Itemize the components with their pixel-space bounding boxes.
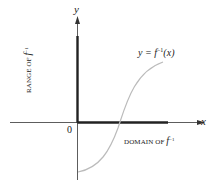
curve-label-prefix: y = (138, 47, 154, 58)
range-label: RANGE OF f−1 (22, 47, 33, 93)
y-axis-label: y (74, 3, 79, 15)
domain-label-text: DOMAIN OF (124, 138, 166, 146)
curve-label-arg: (x) (163, 47, 174, 58)
domain-label-exp: −1 (169, 137, 175, 142)
origin-label: 0 (67, 124, 72, 135)
x-axis-label: x (201, 115, 206, 127)
domain-label: DOMAIN OF f−1 (124, 135, 175, 146)
range-label-exp: −1 (24, 47, 29, 53)
inverse-function-diagram: y x 0 y = f−1(x) RANGE OF f−1 DOMAIN OF … (0, 0, 216, 182)
curve-label: y = f−1(x) (138, 47, 174, 58)
y-axis-arrow-icon (75, 16, 80, 24)
inverse-curve (78, 62, 163, 172)
range-label-func: f (22, 53, 33, 56)
range-label-text: RANGE OF (25, 56, 33, 93)
